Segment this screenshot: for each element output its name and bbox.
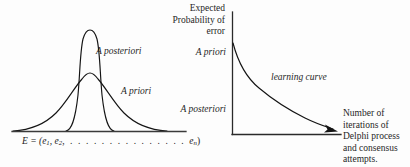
y-axis-tick-a-priori: A priori [160, 47, 226, 58]
y-axis-tick-a-posteriori: A posteriori [152, 104, 226, 115]
learning-curve-path [233, 43, 333, 129]
x-axis-label: Number of iterations of Delphi process a… [343, 108, 409, 166]
y-axis-label: Expected Probability of error [155, 3, 225, 38]
learning-curve-arrowhead [324, 125, 338, 133]
learning-curve-label: learning curve [271, 72, 327, 83]
figure-canvas: A posteriori A priori E = (e1, e2, . . .… [0, 0, 410, 167]
